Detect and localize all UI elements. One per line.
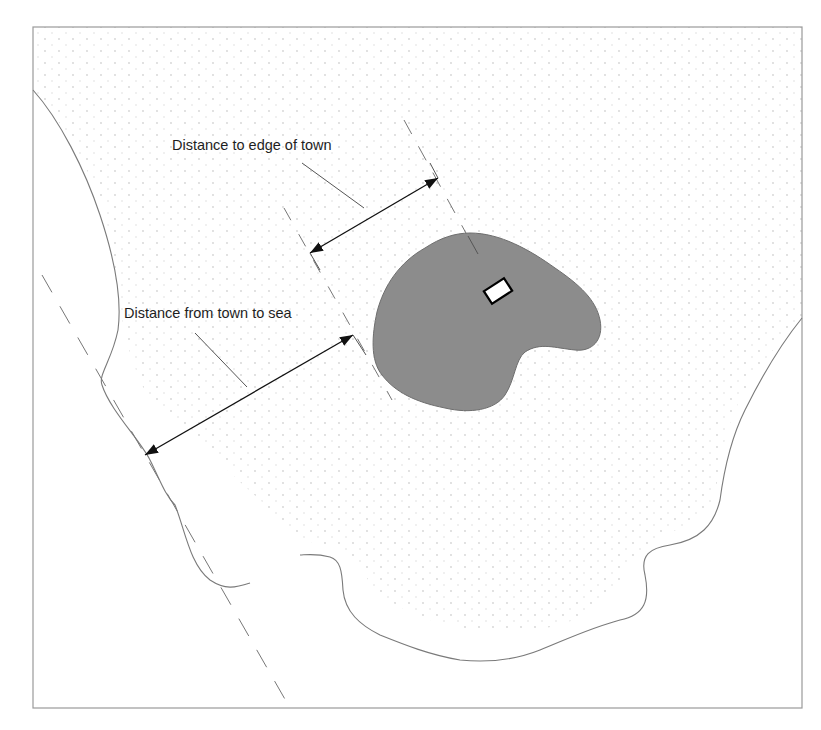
map-diagram xyxy=(0,0,821,730)
label-town-to-sea: Distance from town to sea xyxy=(124,305,292,321)
label-edge-of-town: Distance to edge of town xyxy=(172,137,332,153)
